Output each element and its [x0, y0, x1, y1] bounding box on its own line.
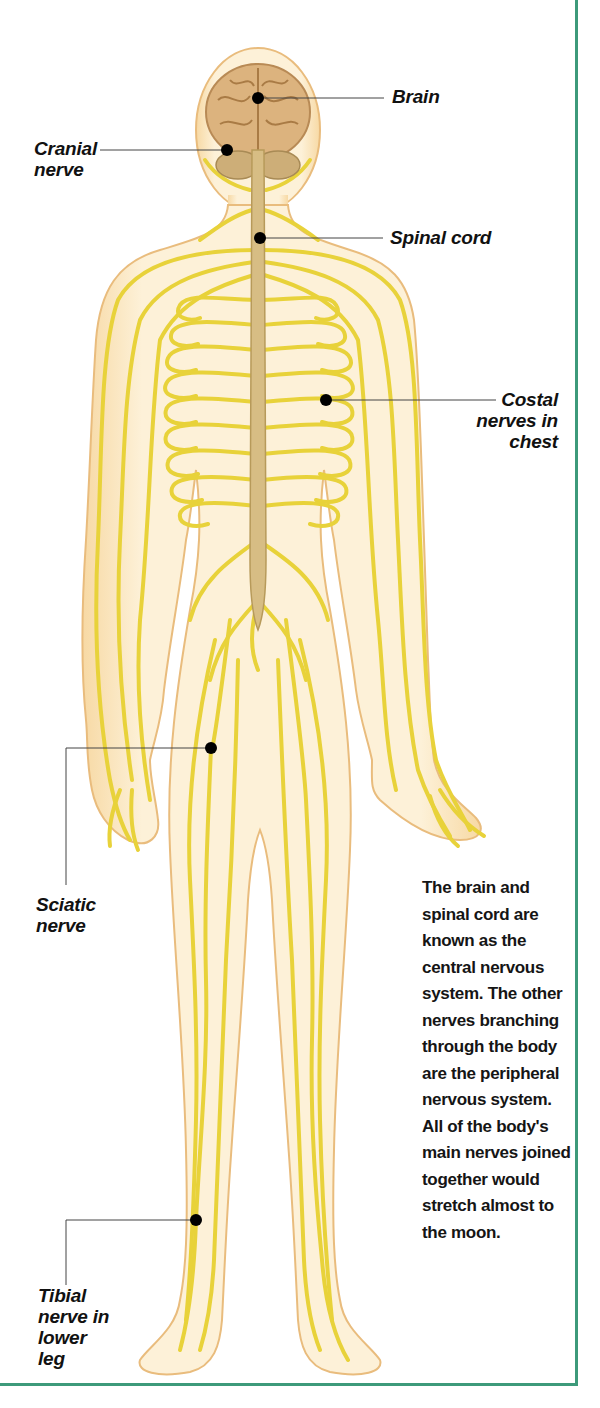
label-cranial-line2: nerve: [34, 159, 97, 180]
label-cranial-nerve: Cranial nerve: [34, 138, 97, 180]
label-tibial-nerve: Tibial nerve in lower leg: [38, 1285, 109, 1369]
brain-marker-dot: [252, 92, 264, 104]
label-sciatic-line2: nerve: [36, 915, 96, 936]
label-spinal-cord-text: Spinal cord: [390, 227, 491, 248]
label-brain: Brain: [392, 86, 440, 107]
label-tibial-line2: nerve in: [38, 1306, 109, 1327]
label-tibial-line4: leg: [38, 1348, 109, 1369]
label-costal-nerves: Costal nerves in chest: [470, 389, 558, 452]
label-tibial-line3: lower: [38, 1327, 109, 1348]
label-spinal-cord: Spinal cord: [390, 227, 491, 248]
spinal-cord-marker-dot: [254, 232, 266, 244]
label-costal-line1: Costal: [470, 389, 558, 410]
label-sciatic-nerve: Sciatic nerve: [36, 894, 96, 936]
sciatic-nerve-marker-dot: [205, 742, 217, 754]
label-cranial-line1: Cranial: [34, 138, 97, 159]
label-brain-text: Brain: [392, 86, 440, 107]
label-costal-line3: chest: [470, 431, 558, 452]
spinal-cord: [250, 150, 266, 630]
costal-nerves-marker-dot: [320, 394, 332, 406]
label-sciatic-line1: Sciatic: [36, 894, 96, 915]
label-tibial-line1: Tibial: [38, 1285, 109, 1306]
description-text: The brain and spinal cord are known as t…: [422, 875, 572, 1246]
cranial-nerve-marker-dot: [221, 144, 233, 156]
tibial-nerve-marker-dot: [190, 1214, 202, 1226]
label-costal-line2: nerves in: [470, 410, 558, 431]
